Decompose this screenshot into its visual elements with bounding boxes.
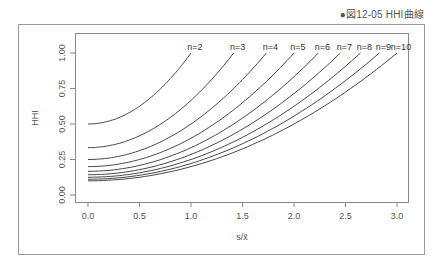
- curve-label: n=8: [357, 42, 372, 52]
- x-tick-label: 0.0: [82, 211, 95, 221]
- curve-n-5: [88, 53, 294, 167]
- y-tick-label: 0.75: [57, 80, 67, 98]
- curve-n-9: [88, 53, 379, 179]
- x-tick-label: 0.5: [133, 211, 146, 221]
- curve-label: n=7: [337, 42, 352, 52]
- y-tick-label: 0.50: [57, 115, 67, 133]
- curve-label: n=10: [391, 42, 411, 52]
- x-tick-label: 3.0: [391, 211, 404, 221]
- curve-n-4: [88, 53, 266, 160]
- y-axis-label: HHI: [30, 110, 40, 126]
- curve-label: n=2: [187, 42, 202, 52]
- x-tick-label: 2.0: [288, 211, 301, 221]
- y-tick-label: 1.00: [57, 44, 67, 62]
- curve-label: n=3: [230, 42, 245, 52]
- x-axis-label: s/x̄: [236, 232, 248, 242]
- x-tick-label: 1.0: [185, 211, 198, 221]
- curve-label: n=4: [263, 42, 278, 52]
- curve-n-6: [88, 53, 318, 171]
- curve-n-3: [88, 53, 234, 148]
- curve-label: n=5: [290, 42, 305, 52]
- x-tick-label: 1.5: [236, 211, 249, 221]
- y-tick-label: 0.25: [57, 151, 67, 169]
- y-axis: 0.000.250.500.751.00: [57, 44, 76, 204]
- curves: n=2n=3n=4n=5n=6n=7n=8n=9n=10: [88, 42, 411, 181]
- x-tick-label: 2.5: [339, 211, 352, 221]
- y-tick-label: 0.00: [57, 186, 67, 204]
- curve-n-7: [88, 53, 340, 175]
- curve-label: n=9: [376, 42, 391, 52]
- curve-label: n=6: [315, 42, 330, 52]
- hhi-chart: 0.000.250.500.751.00 0.00.51.01.52.02.53…: [0, 0, 440, 268]
- x-axis: 0.00.51.01.52.02.53.0: [82, 203, 404, 222]
- curve-n-10: [88, 53, 397, 181]
